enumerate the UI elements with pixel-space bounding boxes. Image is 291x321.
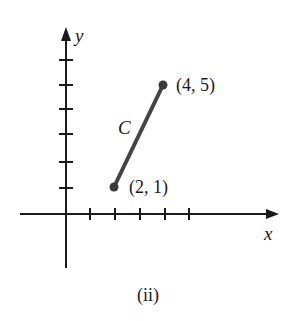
end-point-label: (4, 5) (176, 75, 215, 96)
x-axis-arrow-icon (266, 209, 279, 219)
y-axis (59, 27, 73, 268)
y-axis-label: y (73, 25, 84, 46)
start-point-label: (2, 1) (129, 177, 168, 198)
start-point (110, 183, 119, 192)
curve-label: C (118, 117, 131, 138)
y-axis-arrow-icon (61, 27, 71, 41)
end-point (159, 81, 168, 90)
diagram-canvas: y x C (2, 1) (4, 5) (ii) (0, 0, 291, 321)
x-axis (20, 208, 279, 220)
x-axis-label: x (263, 223, 273, 244)
figure-caption: (ii) (137, 285, 159, 306)
